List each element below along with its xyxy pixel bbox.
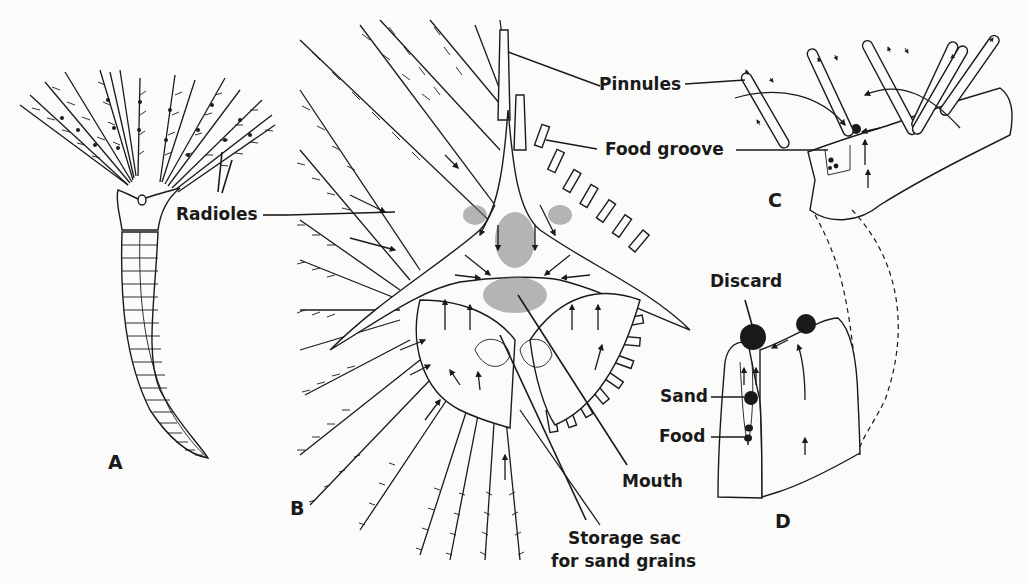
label-food: Food: [659, 428, 705, 445]
label-storage-sac-line2: for sand grains: [551, 553, 696, 570]
diagram-canvas: [0, 0, 1029, 583]
panel-d-groove-section: [718, 314, 860, 498]
panel-label-d: D: [775, 512, 791, 531]
label-pinnules: Pinnules: [599, 76, 681, 93]
panel-a-worm-illustration: [20, 70, 275, 458]
label-sand: Sand: [660, 388, 708, 405]
label-storage-sac-line1: Storage sac: [568, 530, 681, 547]
label-radioles: Radioles: [176, 206, 258, 223]
label-food-groove: Food groove: [605, 141, 724, 158]
label-mouth: Mouth: [622, 473, 683, 490]
panel-label-c: C: [768, 191, 782, 210]
panel-label-a: A: [108, 453, 123, 472]
label-discard: Discard: [710, 273, 782, 290]
panel-label-b: B: [290, 499, 304, 518]
